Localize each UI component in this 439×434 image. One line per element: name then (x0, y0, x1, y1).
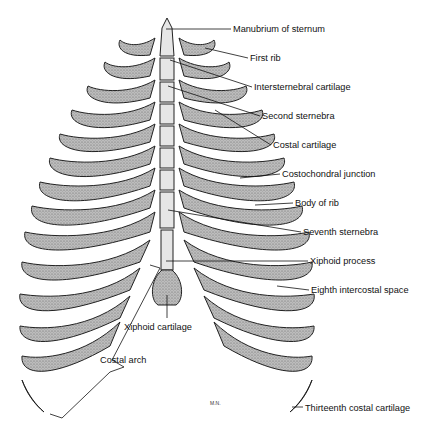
ribcage-illustration: M.N. (0, 0, 439, 434)
label-costochondral-junction: Costochondral junction (282, 169, 375, 180)
label-xiphoid-cartilage: Xiphoid cartilage (124, 322, 192, 333)
label-seventh-sternebra: Seventh sternebra (303, 227, 378, 238)
label-manubrium: Manubrium of sternum (233, 24, 325, 35)
right-ribs (179, 38, 314, 412)
label-intersternebral-cartilage: Intersternebral cartilage (254, 82, 351, 93)
label-costal-cartilage: Costal cartilage (273, 140, 336, 151)
label-second-sternebra: Second sternebra (262, 111, 335, 122)
label-xiphoid-process: Xiphoid process (310, 256, 375, 267)
label-first-rib: First rib (250, 53, 281, 64)
label-eighth-intercostal-space: Eighth intercostal space (311, 285, 409, 296)
artist-signature: M.N. (210, 400, 221, 406)
label-body-of-rib: Body of rib (295, 198, 339, 209)
label-thirteenth-costal-cartilage: Thirteenth costal cartilage (305, 403, 410, 414)
label-costal-arch: Costal arch (100, 355, 146, 366)
sternum (152, 18, 181, 305)
